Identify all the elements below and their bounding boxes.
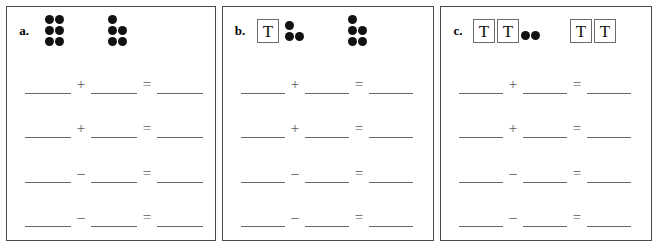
answer-blank[interactable]	[369, 123, 413, 138]
problem-panel-b: b. T	[222, 6, 434, 241]
dot-icon	[55, 26, 64, 35]
equals-symbol: =	[137, 77, 157, 91]
answer-blank[interactable]	[241, 79, 285, 94]
manipulative-groups-b: T	[253, 15, 433, 47]
equation-row: + =	[7, 108, 215, 138]
answer-blank[interactable]	[25, 168, 71, 183]
answer-blank[interactable]	[369, 79, 413, 94]
problem-panel-a: a.	[6, 6, 216, 241]
dot-icon	[295, 32, 304, 41]
answer-blank[interactable]	[523, 123, 567, 138]
answer-blank[interactable]	[25, 212, 71, 227]
answer-blank[interactable]	[91, 168, 137, 183]
dot-icon	[118, 37, 127, 46]
answer-blank[interactable]	[157, 212, 203, 227]
operator-symbol: –	[503, 166, 523, 180]
panel-label-b: b.	[223, 23, 253, 39]
answer-blank[interactable]	[25, 79, 71, 94]
operator-symbol: +	[285, 77, 305, 91]
problem-panel-c: c. T T T T	[440, 6, 652, 241]
manipulative-row-c: c. T T T T	[441, 7, 651, 55]
answer-blank[interactable]	[305, 79, 349, 94]
answer-blank[interactable]	[369, 168, 413, 183]
equation-row: – =	[7, 153, 215, 183]
dot-icon	[45, 26, 54, 35]
answer-blank[interactable]	[91, 79, 137, 94]
answer-blank[interactable]	[241, 212, 285, 227]
rod-group-c2: T T	[570, 19, 616, 43]
manipulative-groups-c: T T T T	[471, 19, 651, 43]
answer-blank[interactable]	[523, 168, 567, 183]
answer-blank[interactable]	[157, 123, 203, 138]
dot-icon	[118, 26, 127, 35]
answer-blank[interactable]	[459, 123, 503, 138]
answer-blank[interactable]	[305, 123, 349, 138]
answer-blank[interactable]	[523, 79, 567, 94]
answer-blank[interactable]	[587, 212, 631, 227]
dot-icon	[521, 31, 530, 40]
mixed-group-c1: T T	[473, 19, 540, 43]
equation-rows-c: + = + = – = –	[441, 55, 651, 240]
manipulative-groups-a	[37, 15, 215, 47]
answer-blank[interactable]	[587, 168, 631, 183]
answer-blank[interactable]	[91, 123, 137, 138]
answer-blank[interactable]	[587, 123, 631, 138]
equals-symbol: =	[349, 77, 369, 91]
dot-cluster-five-icon	[348, 15, 367, 47]
answer-blank[interactable]	[459, 168, 503, 183]
dot-icon	[348, 26, 357, 35]
dot-icon	[108, 26, 117, 35]
equation-row: – =	[441, 197, 651, 227]
equals-symbol: =	[567, 166, 587, 180]
dot-icon	[45, 37, 54, 46]
worksheet: a.	[0, 0, 660, 249]
equals-symbol: =	[137, 121, 157, 135]
manipulative-row-a: a.	[7, 7, 215, 55]
dot-cluster-three-icon	[285, 21, 304, 42]
operator-symbol: +	[503, 121, 523, 135]
answer-blank[interactable]	[587, 79, 631, 94]
answer-blank[interactable]	[305, 168, 349, 183]
mixed-group-b1: T	[257, 19, 304, 43]
equation-row: – =	[223, 197, 433, 227]
ten-rod-set: T T	[473, 19, 519, 43]
dot-icon	[358, 26, 367, 35]
answer-blank[interactable]	[369, 212, 413, 227]
answer-blank[interactable]	[459, 212, 503, 227]
dot-icon	[348, 37, 357, 46]
operator-symbol: –	[285, 210, 305, 224]
equals-symbol: =	[349, 210, 369, 224]
answer-blank[interactable]	[91, 212, 137, 227]
dot-group-b2	[348, 15, 367, 47]
answer-blank[interactable]	[157, 168, 203, 183]
ten-rod-icon: T	[497, 19, 519, 43]
operator-symbol: +	[71, 77, 91, 91]
equals-symbol: =	[349, 121, 369, 135]
dot-icon	[55, 15, 64, 24]
equals-symbol: =	[349, 166, 369, 180]
answer-blank[interactable]	[25, 123, 71, 138]
dot-icon	[55, 37, 64, 46]
panel-label-c: c.	[441, 23, 471, 39]
answer-blank[interactable]	[241, 168, 285, 183]
answer-blank[interactable]	[157, 79, 203, 94]
dot-cluster-five-icon	[108, 15, 127, 47]
ten-rod-icon: T	[257, 19, 279, 43]
answer-blank[interactable]	[305, 212, 349, 227]
operator-symbol: –	[71, 210, 91, 224]
dot-icon	[358, 37, 367, 46]
equation-rows-a: + = + = – = –	[7, 55, 215, 240]
panel-label-a: a.	[7, 23, 37, 39]
operator-symbol: –	[71, 166, 91, 180]
answer-blank[interactable]	[459, 79, 503, 94]
equation-row: – =	[441, 153, 651, 183]
answer-blank[interactable]	[241, 123, 285, 138]
manipulative-row-b: b. T	[223, 7, 433, 55]
dot-cluster-two-icon	[521, 31, 540, 41]
equals-symbol: =	[567, 77, 587, 91]
dot-icon	[531, 31, 540, 40]
dot-icon	[285, 21, 294, 30]
dot-icon	[45, 15, 54, 24]
answer-blank[interactable]	[523, 212, 567, 227]
equals-symbol: =	[567, 121, 587, 135]
